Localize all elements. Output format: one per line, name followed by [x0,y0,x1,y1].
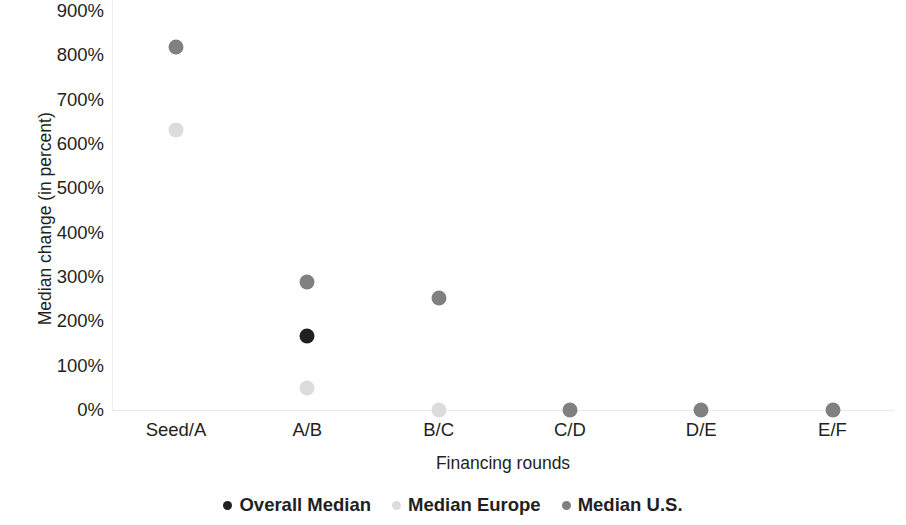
y-axis-line [112,0,113,411]
data-point[interactable] [300,275,315,290]
y-axis-tick-label: 400% [0,224,104,243]
y-axis-tick-label: 800% [0,46,104,65]
x-axis-line [112,410,894,411]
legend-marker-icon [223,501,232,510]
x-axis-tick-label: Seed/A [146,421,207,440]
x-axis-tick-labels: Seed/AA/BB/CC/DD/EE/F [112,421,894,447]
data-point[interactable] [300,380,315,395]
y-axis-tick-label: 500% [0,179,104,198]
legend-marker-icon [392,501,401,510]
data-point[interactable] [431,291,446,306]
y-axis-tick-label: 700% [0,91,104,110]
chart-legend: Overall MedianMedian EuropeMedian U.S. [0,496,906,515]
legend-item[interactable]: Median Europe [392,496,541,515]
x-axis-tick-label: A/B [292,421,322,440]
legend-item[interactable]: Overall Median [223,496,371,515]
x-axis-tick-label: C/D [554,421,586,440]
plot-area [112,0,894,411]
legend-label: Overall Median [239,496,371,515]
data-point[interactable] [694,403,709,418]
x-axis-tick-label: E/F [818,421,847,440]
y-axis-tick-label: 900% [0,2,104,21]
y-axis-tick-label: 300% [0,268,104,287]
legend-label: Median Europe [408,496,541,515]
legend-label: Median U.S. [578,496,683,515]
scatter-chart: Median change (in percent) 900%800%700%6… [0,0,906,525]
y-axis-tick-label: 100% [0,357,104,376]
legend-marker-icon [562,501,571,510]
x-axis-tick-label: D/E [686,421,717,440]
data-point[interactable] [300,328,315,343]
y-axis-tick-label: 0% [0,401,104,420]
y-axis-tick-label: 200% [0,312,104,331]
data-point[interactable] [169,40,184,55]
legend-item[interactable]: Median U.S. [562,496,683,515]
y-axis-tick-labels: 900%800%700%600%500%400%300%200%100%0% [0,0,104,420]
y-axis-tick-label: 600% [0,135,104,154]
x-axis-title: Financing rounds [112,455,894,473]
x-axis-tick-label: B/C [423,421,454,440]
data-point[interactable] [431,403,446,418]
data-point[interactable] [562,403,577,418]
data-point[interactable] [169,122,184,137]
data-point[interactable] [825,403,840,418]
